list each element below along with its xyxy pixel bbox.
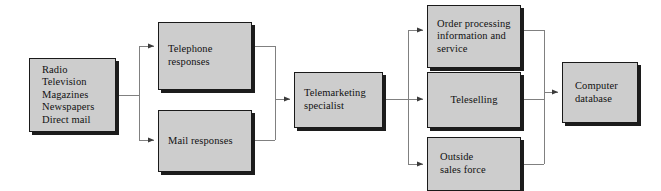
node-outside-sales-force[interactable]: Outside sales force (427, 137, 521, 191)
node-telephone-responses-label: Telephone responses (159, 43, 216, 68)
node-order-processing[interactable]: Order processing information and service (427, 5, 521, 68)
node-sources[interactable]: Radio Television Magazines Newspapers Di… (29, 58, 116, 132)
node-mail-responses[interactable]: Mail responses (158, 110, 252, 172)
node-computer-database-label: Computer database (563, 80, 622, 105)
node-telemarketing-specialist[interactable]: Telemarketing specialist (294, 72, 383, 128)
node-mail-responses-label: Mail responses (159, 135, 237, 148)
node-outside-sales-force-label: Outside sales force (428, 151, 490, 176)
node-teleselling-label: Teleselling (428, 94, 520, 107)
node-teleselling[interactable]: Teleselling (427, 72, 521, 128)
node-telephone-responses[interactable]: Telephone responses (158, 22, 252, 90)
node-computer-database[interactable]: Computer database (562, 62, 638, 123)
node-order-processing-label: Order processing information and service (428, 18, 515, 56)
flowchart-diagram: Radio Television Magazines Newspapers Di… (0, 0, 661, 191)
node-telemarketing-specialist-label: Telemarketing specialist (295, 87, 370, 112)
node-sources-label: Radio Television Magazines Newspapers Di… (30, 64, 98, 127)
